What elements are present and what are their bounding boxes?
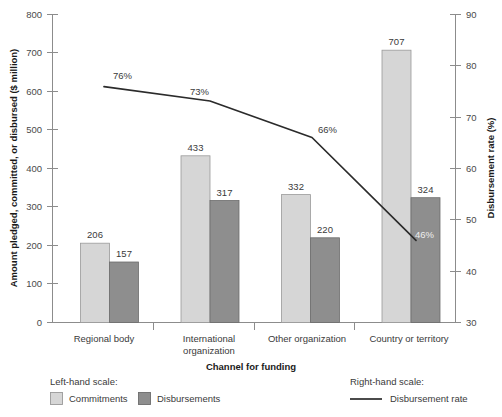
bar-commitments[interactable]	[81, 243, 110, 322]
category-label-regional-body: Regional body	[74, 333, 135, 344]
right-tick-label: 80	[466, 60, 477, 71]
bar-disbursements[interactable]	[311, 238, 340, 323]
category-label-other-organization: Other organization	[268, 333, 346, 344]
disbursement-rate-line[interactable]	[104, 87, 416, 241]
right-tick-label: 40	[466, 266, 477, 277]
left-axis-title: Amount pledged, committed, or disbursed …	[8, 49, 19, 288]
legend-item-disbursements[interactable]: Disbursements	[139, 393, 221, 405]
right-tick-label: 60	[466, 163, 477, 174]
light-square-swatch	[51, 393, 63, 405]
bars-layer: 206 157 433 317 332 220 707	[81, 36, 441, 323]
x-axis	[53, 323, 456, 331]
left-axis-tick-labels: 800 700 600 500 400 300 200 100 0	[26, 9, 42, 329]
line-value-label: 76%	[113, 70, 133, 81]
bar-disbursements[interactable]	[110, 262, 139, 323]
category-label-international-organization-line2: organization	[183, 345, 235, 356]
left-tick-label: 800	[26, 9, 42, 20]
bar-group-regional-body: 206 157	[81, 229, 139, 323]
legend-right-scale: Right-hand scale: Disbursement rate	[350, 376, 468, 404]
right-tick-label: 50	[466, 214, 477, 225]
legend-item-label: Commitments	[69, 393, 128, 404]
left-tick-label: 500	[26, 124, 42, 135]
dark-square-swatch	[139, 393, 151, 405]
bar-commitments[interactable]	[382, 50, 411, 322]
bar-group-international-organization: 433 317	[181, 142, 239, 323]
line-value-label: 46%	[415, 229, 435, 240]
bar-value-label: 206	[87, 229, 103, 240]
left-tick-label: 200	[26, 240, 42, 251]
legend: Left-hand scale: Commitments Disbursemen…	[50, 376, 468, 405]
x-axis-group-ticks	[154, 323, 355, 331]
right-tick-label: 70	[466, 112, 477, 123]
bar-commitments[interactable]	[181, 156, 210, 323]
left-tick-label: 600	[26, 86, 42, 97]
chart-figure: 800 700 600 500 400 300 200 100 0 Amount…	[0, 0, 502, 417]
category-label-international-organization-line1: International	[183, 333, 235, 344]
line-value-label: 66%	[318, 124, 338, 135]
legend-item-label: Disbursements	[157, 393, 221, 404]
bar-value-label: 324	[418, 184, 434, 195]
line-value-label: 73%	[190, 86, 210, 97]
bar-group-other-organization: 332 220	[282, 181, 340, 323]
right-axis-title: Disbursement rate (%)	[485, 118, 496, 219]
legend-item-commitments[interactable]: Commitments	[51, 393, 128, 405]
left-axis: 800 700 600 500 400 300 200 100 0 Amount…	[8, 9, 58, 329]
bar-value-label: 707	[389, 36, 405, 47]
right-axis: 90 80 70 60 50 40 30 Disbursement rate (…	[450, 9, 496, 329]
legend-left-heading: Left-hand scale:	[50, 376, 118, 387]
chart-canvas: 800 700 600 500 400 300 200 100 0 Amount…	[0, 0, 502, 417]
bar-value-label: 157	[116, 248, 132, 259]
bar-value-label: 433	[188, 142, 204, 153]
bar-disbursements[interactable]	[411, 198, 440, 323]
legend-left-scale: Left-hand scale: Commitments Disbursemen…	[50, 376, 221, 405]
right-axis-tick-labels: 90 80 70 60 50 40 30	[466, 9, 477, 329]
left-tick-label: 100	[26, 278, 42, 289]
right-tick-label: 30	[466, 317, 477, 328]
category-labels: Regional body International organization…	[74, 333, 449, 356]
right-tick-label: 90	[466, 9, 477, 20]
legend-item-label: Disbursement rate	[390, 393, 468, 404]
left-tick-label: 300	[26, 201, 42, 212]
left-tick-label: 400	[26, 163, 42, 174]
legend-right-heading: Right-hand scale:	[350, 376, 424, 387]
bar-value-label: 317	[217, 187, 233, 198]
bar-group-country-or-territory: 707 324	[382, 36, 440, 323]
left-tick-label: 0	[37, 317, 42, 328]
legend-item-disbursement-rate[interactable]: Disbursement rate	[350, 393, 468, 404]
bar-value-label: 332	[288, 181, 304, 192]
bar-commitments[interactable]	[282, 195, 311, 323]
left-tick-label: 700	[26, 47, 42, 58]
category-label-country-or-territory: Country or territory	[369, 333, 448, 344]
x-axis-title: Channel for funding	[206, 361, 296, 372]
bar-disbursements[interactable]	[210, 201, 239, 323]
bar-value-label: 220	[317, 224, 333, 235]
